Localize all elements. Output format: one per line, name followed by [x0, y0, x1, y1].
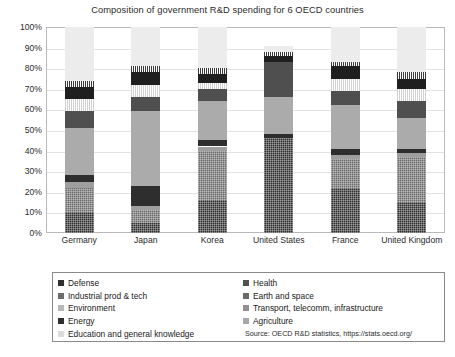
bar-segment[interactable]	[397, 89, 426, 101]
x-axis-tick-label: United States	[246, 235, 313, 246]
bar-segment[interactable]	[264, 134, 293, 138]
bar-segment[interactable]	[65, 27, 94, 81]
legend-item[interactable]: Health	[243, 277, 443, 290]
bar-segment[interactable]	[397, 101, 426, 117]
bar-segment[interactable]	[198, 101, 227, 140]
bar-segment[interactable]	[264, 138, 293, 233]
bar-segment[interactable]	[397, 202, 426, 233]
bar-segment[interactable]	[331, 62, 360, 66]
bar-segment[interactable]	[397, 149, 426, 153]
bar-segment[interactable]	[131, 27, 160, 66]
bar-segment[interactable]	[397, 27, 426, 72]
bar-segment[interactable]	[397, 118, 426, 149]
legend-item[interactable]: Agriculture	[243, 315, 443, 328]
bar-segment[interactable]	[397, 153, 426, 157]
y-axis-tick-label: 90%	[0, 43, 42, 53]
legend-swatch-icon	[58, 293, 64, 299]
x-axis-tick-label: France	[312, 235, 379, 246]
bar-segment[interactable]	[131, 223, 160, 233]
bar-segment[interactable]	[131, 72, 160, 84]
bar-segment[interactable]	[397, 72, 426, 78]
bar-segment[interactable]	[198, 140, 227, 146]
legend-column-right: HealthEarth and spaceTransport, telecomm…	[243, 277, 443, 327]
bar-segment[interactable]	[131, 186, 160, 207]
bar-segment[interactable]	[331, 159, 360, 188]
bar-segment[interactable]	[131, 206, 160, 210]
bar-stack	[264, 27, 293, 233]
bar-segment[interactable]	[131, 111, 160, 185]
bar-segment[interactable]	[331, 155, 360, 159]
legend-swatch-icon	[58, 318, 64, 324]
bar-segment[interactable]	[65, 212, 94, 233]
bar-segment[interactable]	[331, 79, 360, 91]
bar-segment[interactable]	[65, 182, 94, 188]
bar-column[interactable]	[131, 27, 160, 233]
bar-segment[interactable]	[198, 147, 227, 151]
bar-segment[interactable]	[198, 89, 227, 101]
bar-segment[interactable]	[131, 97, 160, 111]
stacked-bar-chart-figure: Composition of government R&D spending f…	[0, 0, 455, 357]
bar-segment[interactable]	[65, 87, 94, 99]
bar-segment[interactable]	[264, 52, 293, 56]
bar-segment[interactable]	[131, 210, 160, 222]
bar-segment[interactable]	[65, 81, 94, 87]
x-axis-tick-label: Japan	[113, 235, 180, 246]
legend-item[interactable]: Transport, telecomm, infrastructure	[243, 302, 443, 315]
bar-column[interactable]	[331, 27, 360, 233]
legend-item-label: Industrial prod & tech	[68, 291, 147, 301]
bar-segment[interactable]	[331, 188, 360, 233]
bar-segment[interactable]	[65, 99, 94, 111]
bar-segment[interactable]	[198, 68, 227, 74]
legend-swatch-icon	[243, 280, 249, 286]
bar-segment[interactable]	[397, 79, 426, 89]
bar-segment[interactable]	[65, 175, 94, 181]
bar-segment[interactable]	[131, 85, 160, 97]
legend-item-label: Earth and space	[253, 291, 314, 301]
legend-column-left: DefenseIndustrial prod & techEnvironment…	[58, 277, 248, 340]
legend-item[interactable]: Energy	[58, 315, 248, 328]
legend-item[interactable]: Education and general knowledge	[58, 327, 248, 340]
bar-segment[interactable]	[331, 27, 360, 62]
bar-segment[interactable]	[331, 91, 360, 105]
legend-item-label: Environment	[68, 303, 115, 313]
bar-segment[interactable]	[264, 62, 293, 97]
legend-item[interactable]: Defense	[58, 277, 248, 290]
x-axis-tick-label: Korea	[179, 235, 246, 246]
bar-segment[interactable]	[198, 27, 227, 68]
bar-segment[interactable]	[331, 149, 360, 155]
legend-swatch-icon	[243, 318, 249, 324]
bar-segment[interactable]	[65, 188, 94, 213]
bar-stack	[198, 27, 227, 233]
bar-segment[interactable]	[198, 83, 227, 89]
bar-column[interactable]	[397, 27, 426, 233]
legend-swatch-icon	[243, 293, 249, 299]
legend-item[interactable]: Earth and space	[243, 290, 443, 303]
bar-segment[interactable]	[264, 97, 293, 134]
y-axis-tick-label: 0%	[0, 228, 42, 238]
y-axis-tick-label: 70%	[0, 84, 42, 94]
bar-segment[interactable]	[264, 46, 293, 52]
y-axis-tick-label: 60%	[0, 104, 42, 114]
y-axis-tick-label: 100%	[0, 22, 42, 32]
y-axis-tick-label: 80%	[0, 63, 42, 73]
y-axis-tick-label: 40%	[0, 146, 42, 156]
bar-segment[interactable]	[131, 66, 160, 72]
legend-item[interactable]: Industrial prod & tech	[58, 290, 248, 303]
bar-segment[interactable]	[397, 157, 426, 202]
bar-segment[interactable]	[198, 200, 227, 233]
bar-segment[interactable]	[264, 56, 293, 62]
y-axis: 0%10%20%30%40%50%60%70%80%90%100%	[0, 27, 42, 233]
bar-segment[interactable]	[331, 105, 360, 148]
bar-segment[interactable]	[65, 111, 94, 127]
bar-segment[interactable]	[331, 66, 360, 78]
bar-stack	[65, 27, 94, 233]
bar-stack	[131, 27, 160, 233]
legend-item[interactable]: Environment	[58, 302, 248, 315]
bar-column[interactable]	[65, 27, 94, 233]
legend-item-label: Defense	[68, 278, 99, 288]
bar-column[interactable]	[198, 27, 227, 233]
bar-segment[interactable]	[198, 74, 227, 82]
bar-column[interactable]	[264, 27, 293, 233]
bar-segment[interactable]	[65, 128, 94, 175]
bar-segment[interactable]	[198, 151, 227, 200]
